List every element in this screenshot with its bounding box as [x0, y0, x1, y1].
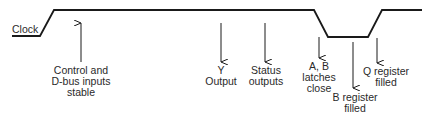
- q-register-label: Q register filled: [360, 66, 412, 88]
- b-register-label: B register filled: [330, 92, 380, 114]
- y-output-label: Y Output: [201, 65, 241, 87]
- clock-label: Clock: [12, 24, 38, 35]
- label-line: filled: [360, 77, 412, 88]
- status-outputs-label: Status outputs: [244, 65, 288, 87]
- control-stable-label: Control and D-bus inputs stable: [46, 65, 116, 98]
- ab-latches-label: A, B latches close: [300, 61, 338, 94]
- clock-timing-diagram: Clock Control and D-bus inputs stable Y …: [0, 0, 431, 116]
- clock-waveform: [12, 10, 422, 37]
- label-line: Output: [201, 76, 241, 87]
- clock-label-text: Clock: [12, 24, 38, 35]
- label-line: stable: [46, 87, 116, 98]
- label-line: filled: [330, 103, 380, 114]
- label-line: outputs: [244, 76, 288, 87]
